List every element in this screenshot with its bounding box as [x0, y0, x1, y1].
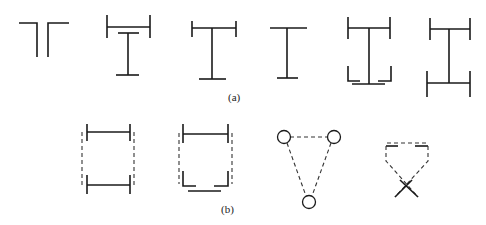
figure-label-b: (b) — [221, 203, 234, 215]
laced-flange-angles-shape — [179, 124, 232, 191]
figure-label-a: (a) — [228, 91, 240, 103]
plate-and-tee-shape — [107, 15, 150, 75]
crossed-angles-shape — [386, 143, 428, 197]
flanged-tee-shape — [192, 21, 236, 79]
node-triangle-shape — [278, 131, 341, 209]
i-beam-shape — [270, 28, 307, 78]
node-circle — [278, 131, 291, 144]
laced-flanges-shape — [82, 124, 134, 194]
i-section-with-angles-shape — [348, 17, 391, 84]
double-flanged-i-shape — [427, 18, 470, 97]
double-angle-shape — [19, 23, 69, 57]
structural-sections-diagram — [0, 0, 486, 225]
node-circle — [328, 131, 341, 144]
node-circle — [303, 196, 316, 209]
